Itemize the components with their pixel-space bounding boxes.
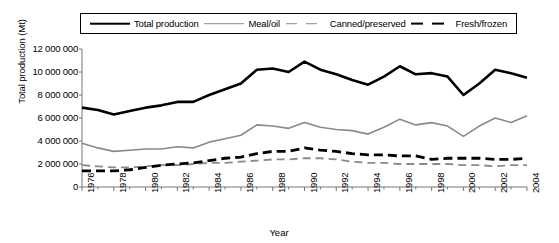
x-axis-tick-label: 1980	[150, 173, 160, 193]
x-axis-title: Year	[269, 227, 288, 238]
x-axis-tick-label: 1998	[436, 173, 446, 193]
series-line-meal-oil	[82, 116, 527, 152]
x-axis-tick-label: 1994	[372, 173, 382, 193]
plot-area	[0, 0, 559, 243]
x-axis-tick-label: 1976	[86, 173, 96, 193]
x-axis-tick-label: 1978	[118, 173, 128, 193]
chart-figure: Total production Meal/oil Canned/preserv…	[0, 0, 559, 243]
x-axis-tick-label: 1992	[340, 173, 350, 193]
x-axis-tick-label: 2000	[467, 173, 477, 193]
series-line-total-production	[82, 62, 527, 115]
chart-canvas	[0, 0, 559, 243]
x-axis-tick-label: 1988	[277, 173, 287, 193]
x-axis-tick-label: 1996	[404, 173, 414, 193]
x-axis-tick-label: 1986	[245, 173, 255, 193]
series-line-fresh-frozen	[82, 148, 527, 171]
x-axis-tick-label: 1982	[181, 173, 191, 193]
x-axis-tick-label: 1990	[309, 173, 319, 193]
x-axis-tick-label: 2002	[499, 173, 509, 193]
x-axis-tick-label: 1984	[213, 173, 223, 193]
x-axis-tick-label: 2004	[531, 173, 541, 193]
